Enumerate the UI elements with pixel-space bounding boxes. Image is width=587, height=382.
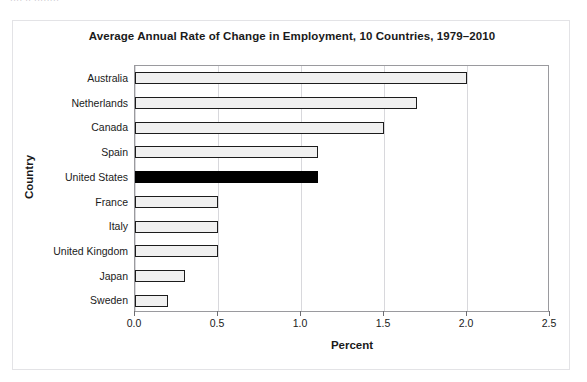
bar[interactable]: [135, 196, 218, 208]
y-axis-title: Country: [23, 117, 35, 237]
x-tick-mark: [383, 311, 384, 316]
x-tick-label: 0.0: [127, 317, 142, 329]
bar-row: United Kingdom: [135, 239, 548, 264]
chart-title: Average Annual Rate of Change in Employm…: [13, 30, 571, 42]
bar[interactable]: [135, 221, 218, 233]
bar-row: Netherlands: [135, 91, 548, 116]
bar[interactable]: [135, 270, 185, 282]
y-tick-label: Japan: [99, 271, 128, 282]
bar-row: Sweden: [135, 288, 548, 313]
y-tick-label: France: [95, 197, 128, 208]
chart-figure: Average Annual Rate of Change in Employm…: [12, 20, 570, 370]
y-tick-label: Canada: [91, 122, 128, 133]
y-tick-label: Spain: [101, 147, 128, 158]
x-axis-ticks: 0.00.51.01.52.02.5: [134, 317, 549, 333]
bar[interactable]: [135, 146, 318, 158]
x-tick-mark: [217, 311, 218, 316]
bar-row: Italy: [135, 214, 548, 239]
bar[interactable]: [135, 171, 318, 183]
bar[interactable]: [135, 245, 218, 257]
y-tick-label: Sweden: [90, 295, 128, 306]
bar[interactable]: [135, 122, 384, 134]
page-top-text-sliver: ···· ·· ········: [10, 0, 130, 6]
bar-row: Australia: [135, 66, 548, 91]
x-tick-label: 1.5: [376, 317, 391, 329]
y-tick-label: Australia: [87, 73, 128, 84]
x-tick-label: 2.5: [542, 317, 557, 329]
bar-row: Japan: [135, 264, 548, 289]
bar[interactable]: [135, 72, 467, 84]
y-tick-label: Italy: [109, 221, 128, 232]
bar-row: France: [135, 190, 548, 215]
bar-row: Spain: [135, 140, 548, 165]
x-tick-label: 2.0: [459, 317, 474, 329]
x-axis-title: Percent: [134, 339, 570, 351]
bar-row: Canada: [135, 115, 548, 140]
x-tick-label: 1.0: [293, 317, 308, 329]
bar[interactable]: [135, 295, 168, 307]
plot-area: AustraliaNetherlandsCanadaSpainUnited St…: [134, 65, 549, 312]
y-tick-label: Netherlands: [71, 98, 128, 109]
bar[interactable]: [135, 97, 417, 109]
y-tick-label: United Kingdom: [53, 246, 128, 257]
x-tick-mark: [134, 311, 135, 316]
x-tick-label: 0.5: [210, 317, 225, 329]
y-tick-label: United States: [65, 172, 128, 183]
x-tick-mark: [466, 311, 467, 316]
bar-row: United States: [135, 165, 548, 190]
x-tick-mark: [549, 311, 550, 316]
x-tick-mark: [300, 311, 301, 316]
bar-rows: AustraliaNetherlandsCanadaSpainUnited St…: [135, 66, 548, 311]
